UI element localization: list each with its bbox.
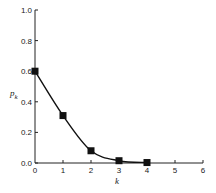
x-tick-label: 6 <box>201 166 206 175</box>
y-tick-label: 1.0 <box>21 6 33 15</box>
data-point-marker <box>60 112 67 119</box>
data-point-marker <box>144 159 151 166</box>
data-point-marker <box>32 68 39 75</box>
chart: 0.00.20.40.60.81.00123456 pk k <box>0 0 216 193</box>
data-point-marker <box>88 147 95 154</box>
axes <box>35 10 203 163</box>
data-point-marker <box>116 157 123 164</box>
x-tick-label: 2 <box>89 166 94 175</box>
y-tick-label: 0.6 <box>21 67 33 76</box>
x-tick-label: 5 <box>173 166 178 175</box>
y-tick-label: 0.4 <box>21 98 33 107</box>
y-tick-label: 0.0 <box>21 159 33 168</box>
x-tick-label: 4 <box>145 166 150 175</box>
x-tick-label: 0 <box>33 166 38 175</box>
ticks: 0.00.20.40.60.81.00123456 <box>21 6 206 175</box>
x-axis-label: k <box>115 176 120 186</box>
y-tick-label: 0.8 <box>21 37 33 46</box>
data-markers <box>32 68 151 166</box>
x-tick-label: 1 <box>61 166 66 175</box>
x-tick-label: 3 <box>117 166 122 175</box>
y-axis-label: pk <box>9 88 19 101</box>
y-tick-label: 0.2 <box>21 128 33 137</box>
